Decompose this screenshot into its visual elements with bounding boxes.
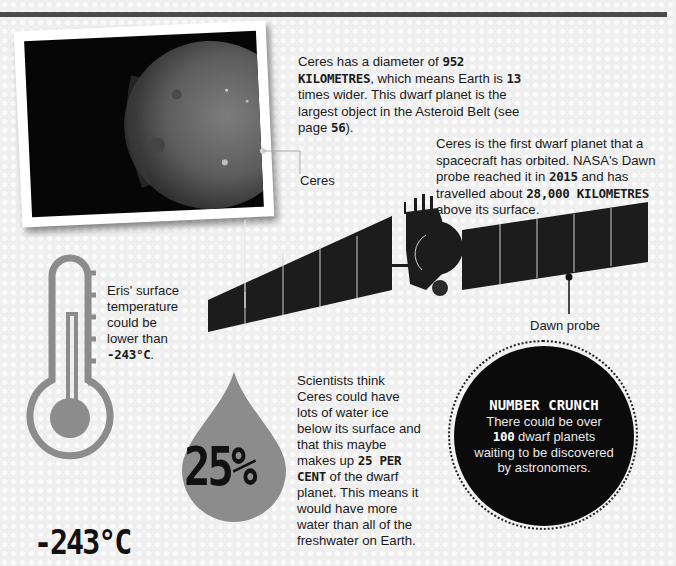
temperature-value: -243°C [34,522,130,562]
water-ice-fact: Scientists think Ceres could have lots o… [297,373,421,549]
ceres-diameter-fact: Ceres has a diameter of 952 KILOMETRES, … [298,54,542,137]
number-crunch-badge: NUMBER CRUNCH There could be over 100 dw… [454,346,634,526]
dawn-probe-label: Dawn probe [530,318,600,333]
eris-temperature-fact: Eris' surface temperature could be lower… [107,283,187,363]
number-crunch-title: NUMBER CRUNCH [489,397,599,413]
ceres-label: Ceres [300,173,335,188]
top-rule [0,12,667,17]
number-crunch-text: There could be over 100 dwarf planets wa… [474,414,614,476]
dawn-probe-callout-line [564,272,574,316]
thermometer-icon [24,252,116,464]
water-percentage: 25% [184,436,254,497]
